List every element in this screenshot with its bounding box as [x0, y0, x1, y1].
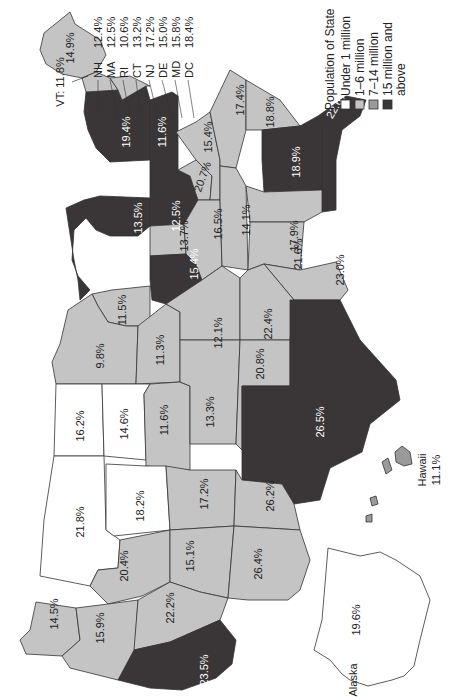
label-az: 26.4%: [252, 548, 264, 579]
callout-ma-val: 12.5%: [105, 17, 117, 48]
label-mt: 21.8%: [74, 506, 86, 537]
hawaii-label: Hawaii: [416, 453, 428, 486]
state-al: [246, 186, 322, 222]
callout-de-val: 15.0%: [157, 17, 169, 48]
alaska-inset: 19.6% Alaska: [314, 548, 430, 697]
hawaii-value: 11.1%: [430, 455, 442, 486]
callout-nh: NH: [92, 62, 104, 78]
legend-swatch-7-14m: [369, 100, 378, 109]
label-nm: 26.2%: [264, 480, 276, 511]
legend-label-7-14m: 7–14 million: [367, 32, 381, 96]
label-ne: 11.6%: [158, 405, 170, 436]
hawaii-inset: Hawaii 11.1%: [366, 446, 442, 522]
label-co: 17.2%: [198, 478, 210, 509]
state-az: [228, 526, 310, 600]
state-ny: [84, 86, 150, 162]
label-id: 20.4%: [118, 550, 130, 581]
label-il: 15.4%: [188, 248, 200, 279]
legend-label-15m: 15 million and: [381, 22, 395, 96]
callout-dc: DC: [183, 62, 195, 78]
legend: Population of State Under 1 million 1–6 …: [323, 8, 408, 110]
label-pa: 11.6%: [156, 117, 168, 148]
vt-callout: VT: 11.8%: [54, 57, 66, 107]
legend-swatch-under-1m: [341, 100, 350, 109]
callout-dc-val: 18.4%: [183, 17, 195, 48]
alaska-value: 19.6%: [350, 604, 362, 635]
label-in: 13.7%: [178, 220, 190, 251]
label-ok: 20.8%: [254, 348, 266, 379]
callout-ct-val: 13.2%: [131, 17, 143, 48]
label-mi: 13.5%: [132, 202, 144, 233]
callout-md-val: 15.8%: [170, 17, 182, 48]
hawaii-island-4: [366, 514, 372, 522]
label-or: 15.9%: [94, 612, 106, 643]
label-ar: 22.4%: [262, 308, 274, 339]
label-tn: 14.1%: [240, 204, 252, 235]
label-mo: 12.1%: [212, 317, 224, 348]
label-wi: 11.5%: [116, 295, 128, 326]
hawaii-island-2: [382, 458, 392, 474]
legend-label-under-1m: Under 1 million: [339, 16, 353, 96]
state-ak: [314, 548, 430, 686]
label-wa: 14.5%: [48, 598, 60, 629]
legend-swatch-15m: [383, 100, 392, 109]
callout-ct: CT: [131, 63, 143, 78]
label-wy: 18.2%: [134, 490, 146, 521]
label-la: 23.0%: [334, 254, 346, 285]
alaska-label: Alaska: [347, 663, 359, 697]
us-population-map: 19.6% Alaska Hawaii 11.1% 14.9% 19.4% 11…: [0, 0, 449, 697]
hawaii-island-3: [370, 496, 378, 506]
callout-nj: NJ: [144, 65, 156, 78]
label-nd: 16.2%: [74, 410, 86, 441]
label-va: 15.4%: [202, 121, 214, 152]
label-ks: 13.3%: [204, 396, 216, 427]
label-ny: 19.4%: [120, 116, 132, 147]
dc-leader: [188, 80, 194, 118]
hawaii-island-big: [395, 446, 412, 466]
legend-label-15m-line2: above: [394, 63, 408, 96]
callout-ma: MA: [105, 61, 117, 78]
label-ga: 18.9%: [290, 146, 302, 177]
label-ca: 23.5%: [198, 654, 210, 685]
label-ky: 16.5%: [212, 208, 224, 239]
callout-ri-val: 10.6%: [118, 17, 130, 48]
legend-swatch-1-6m: [355, 100, 364, 109]
label-mn: 9.8%: [94, 343, 106, 368]
label-ut: 15.1%: [184, 540, 196, 571]
label-sc: 18.8%: [264, 96, 276, 127]
callout-ri: RI: [118, 67, 130, 78]
callout-de: DE: [157, 63, 169, 78]
label-nc: 17.4%: [234, 84, 246, 115]
callout-md: MD: [170, 61, 182, 78]
legend-title: Population of State: [323, 8, 337, 110]
callout-nj-val: 17.2%: [144, 17, 156, 48]
label-tx: 26.5%: [314, 406, 326, 437]
label-nv: 22.2%: [164, 592, 176, 623]
label-ia: 11.3%: [154, 335, 166, 366]
callout-nh-val: 12.4%: [92, 17, 104, 48]
legend-label-1-6m: 1–6 million: [353, 39, 367, 96]
label-sd: 14.6%: [118, 408, 130, 439]
label-ms: 21.6%: [292, 238, 304, 269]
